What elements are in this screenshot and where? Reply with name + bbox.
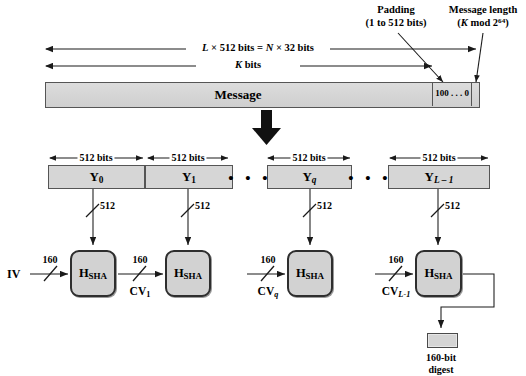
cv-subscript: L-1 <box>398 290 410 299</box>
block-yl1-label: YL – 1 <box>425 169 454 185</box>
k-bits-dimension-label: K bits <box>232 59 264 70</box>
h-symbol: H <box>296 266 306 280</box>
block-y1-label: Y1 <box>182 169 196 185</box>
h-symbol: H <box>174 266 184 280</box>
dim-tail-text: × 32 bits <box>273 42 314 53</box>
cv-label-1: CV1 <box>130 285 151 299</box>
k-symbol: K <box>461 17 468 28</box>
bus-label-512-0: 512 <box>100 200 115 211</box>
y-subscript: L – 1 <box>434 175 453 185</box>
cv-label-q: CVq <box>258 285 279 299</box>
y-symbol: Y <box>89 169 98 184</box>
hsha-label-l1: HSHA <box>424 266 452 281</box>
blocks-ellipsis-right: • • • <box>348 170 391 187</box>
y-symbol: Y <box>182 169 191 184</box>
y-symbol: Y <box>425 169 434 184</box>
sha-subscript: SHA <box>306 271 325 281</box>
message-bar-label: Message <box>215 87 262 103</box>
hsha-label-1: HSHA <box>174 266 202 281</box>
K-symbol: K <box>235 59 242 70</box>
block-y1: Y1 <box>145 165 233 189</box>
hsha-block-q: HSHA <box>287 250 333 297</box>
y-symbol: Y <box>302 169 311 184</box>
bus-label-160-cv1: 160 <box>133 254 148 265</box>
block-y0-label: Y0 <box>89 169 103 185</box>
h-symbol: H <box>79 266 89 280</box>
padding-callout-sublabel: (1 to 512 bits) <box>366 17 427 28</box>
bus-label-512-q: 512 <box>317 200 332 211</box>
mod-text: mod 2 <box>468 17 498 28</box>
cv-text: CV <box>258 285 275 297</box>
hsha-block-l1: HSHA <box>415 250 462 297</box>
digest-box <box>427 333 458 348</box>
y-subscript: 0 <box>99 175 104 185</box>
iv-label: IV <box>7 267 20 282</box>
cv-subscript: 1 <box>146 290 150 299</box>
length-cell-divider <box>471 82 472 106</box>
y-subscript: q <box>312 175 317 185</box>
digest-label-line1: 160-bit <box>426 352 456 363</box>
message-length-callout-sublabel: (K mod 264) <box>457 17 508 28</box>
sha-subscript: SHA <box>184 271 203 281</box>
block-width-label-q: 512 bits <box>290 152 327 163</box>
block-width-label-0: 512 bits <box>77 152 114 163</box>
digest-label-line2: digest <box>429 364 454 375</box>
block-y0: Y0 <box>48 165 145 189</box>
padding-callout-label: Padding <box>377 4 414 15</box>
message-bar <box>45 82 480 108</box>
sha-subscript: SHA <box>434 271 453 281</box>
bus-label-512-1: 512 <box>195 200 210 211</box>
total-length-dimension-label: L × 512 bits = N × 32 bits <box>199 42 317 53</box>
hsha-block-1: HSHA <box>165 250 211 297</box>
cv-label-l1: CVL-1 <box>382 285 411 299</box>
block-yl1: YL – 1 <box>388 165 490 189</box>
block-yq-label: Yq <box>302 169 316 185</box>
bus-label-512-l1: 512 <box>445 200 460 211</box>
padding-cell-label: 100 . . . 0 <box>435 88 469 98</box>
sha-message-digest-diagram: Padding (1 to 512 bits) Message length (… <box>0 0 526 376</box>
paren-close: ) <box>505 17 509 28</box>
cv-subscript: q <box>274 290 278 299</box>
padding-cell-divider <box>432 82 433 106</box>
bus-label-160-iv: 160 <box>43 254 58 265</box>
h-symbol: H <box>424 266 434 280</box>
dim-mid-text: × 512 bits = <box>208 42 265 53</box>
hsha-block-0: HSHA <box>70 250 116 297</box>
exponent-64: 64 <box>498 17 505 25</box>
hsha-label-q: HSHA <box>296 266 324 281</box>
cv-text: CV <box>382 285 399 297</box>
bus-label-160-cvl1: 160 <box>389 254 404 265</box>
block-width-label-1: 512 bits <box>169 152 206 163</box>
k-bits-text: bits <box>242 59 261 70</box>
cv-text: CV <box>130 285 147 297</box>
block-width-label-l1: 512 bits <box>420 152 457 163</box>
hsha-label-0: HSHA <box>79 266 107 281</box>
block-yq: Yq <box>267 165 352 189</box>
y-subscript: 1 <box>191 175 196 185</box>
blocks-ellipsis-left: • • • <box>228 170 271 187</box>
bus-label-160-cvq: 160 <box>261 254 276 265</box>
message-length-callout-label: Message length <box>449 4 518 15</box>
expand-arrow <box>252 110 281 145</box>
sha-subscript: SHA <box>89 271 108 281</box>
